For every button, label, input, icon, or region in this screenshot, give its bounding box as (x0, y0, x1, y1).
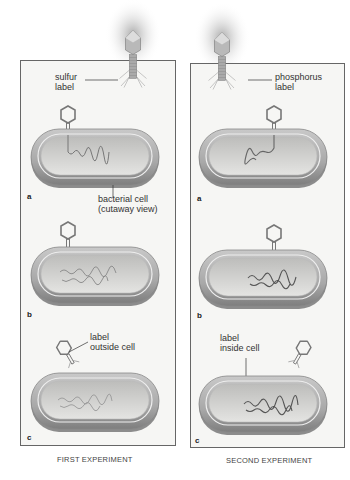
step-c-left: c (27, 433, 31, 442)
first-experiment-caption: FIRST EXPERIMENT (57, 455, 133, 464)
label-outside-cell-annotation: label outside cell (90, 332, 135, 352)
second-experiment-caption: SECOND EXPERIMENT (226, 456, 312, 465)
step-b-left: b (27, 310, 32, 319)
bacterial-cell-left-c (31, 373, 159, 432)
bacterial-cell-left-a (31, 129, 159, 188)
bacterial-cell-right-a (199, 129, 327, 188)
bacterial-cell-annotation: bacterial cell (cutaway view) (98, 194, 158, 214)
label-inside-cell-annotation: label inside cell (220, 333, 260, 353)
step-c-right: c (195, 436, 199, 445)
phosphorus-labeled-phage-icon (209, 33, 236, 90)
phosphorus-label: phosphorus label (275, 72, 322, 92)
bacterial-cell-right-b (199, 250, 327, 309)
detached-phage-coat-icon (55, 338, 79, 368)
sulfur-label: sulfur label (55, 72, 77, 92)
detached-phage-coat-icon (288, 338, 312, 368)
step-a-right: a (197, 194, 201, 203)
step-a-left: a (27, 192, 31, 201)
sulfur-labeled-phage-icon (120, 31, 147, 88)
step-b-right: b (197, 311, 202, 320)
bacterial-cell-left-b (31, 247, 159, 306)
bacterial-cell-right-c (199, 376, 327, 435)
